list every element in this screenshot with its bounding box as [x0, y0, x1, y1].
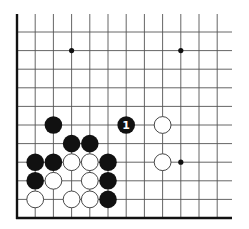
- black-stone: [26, 153, 44, 171]
- white-stone-icon: [81, 154, 98, 171]
- black-stone: [63, 135, 81, 153]
- black-stone-numbered: 1: [117, 116, 135, 134]
- black-stone-icon: [99, 172, 117, 190]
- white-stone: [63, 191, 80, 208]
- black-stone: [99, 172, 117, 190]
- white-stone: [63, 154, 80, 171]
- star-point-icon: [178, 160, 183, 165]
- white-stone: [45, 172, 62, 189]
- white-stone-icon: [27, 191, 44, 208]
- black-stone-icon: [81, 135, 99, 153]
- black-stone: [99, 153, 117, 171]
- go-board-diagram: 1 1: [0, 0, 249, 229]
- white-stone-icon: [63, 191, 80, 208]
- black-stone-icon: [45, 153, 63, 171]
- black-stone: [99, 191, 117, 209]
- star-point-icon: [69, 48, 74, 53]
- white-stone: [81, 172, 98, 189]
- white-stone: [154, 154, 171, 171]
- white-stone-icon: [154, 154, 171, 171]
- move-number-label: 1: [122, 119, 130, 132]
- black-stone: [26, 172, 44, 190]
- black-stone-icon: [45, 116, 63, 134]
- white-stone-icon: [63, 154, 80, 171]
- black-stone-icon: [26, 153, 44, 171]
- white-stone: [81, 191, 98, 208]
- white-stone: [27, 191, 44, 208]
- go-board: 1: [0, 0, 249, 229]
- black-stone-icon: [63, 135, 81, 153]
- white-stone: [81, 154, 98, 171]
- white-stone-icon: [81, 172, 98, 189]
- white-stone-icon: [45, 172, 62, 189]
- black-stone: [81, 135, 99, 153]
- black-stone-icon: [99, 153, 117, 171]
- white-stone: [154, 117, 171, 134]
- star-point-icon: [178, 48, 183, 53]
- white-stone-icon: [154, 117, 171, 134]
- black-stone-icon: [26, 172, 44, 190]
- black-stone-icon: [99, 191, 117, 209]
- black-stone: [45, 116, 63, 134]
- black-stone: [45, 153, 63, 171]
- white-stone-icon: [81, 191, 98, 208]
